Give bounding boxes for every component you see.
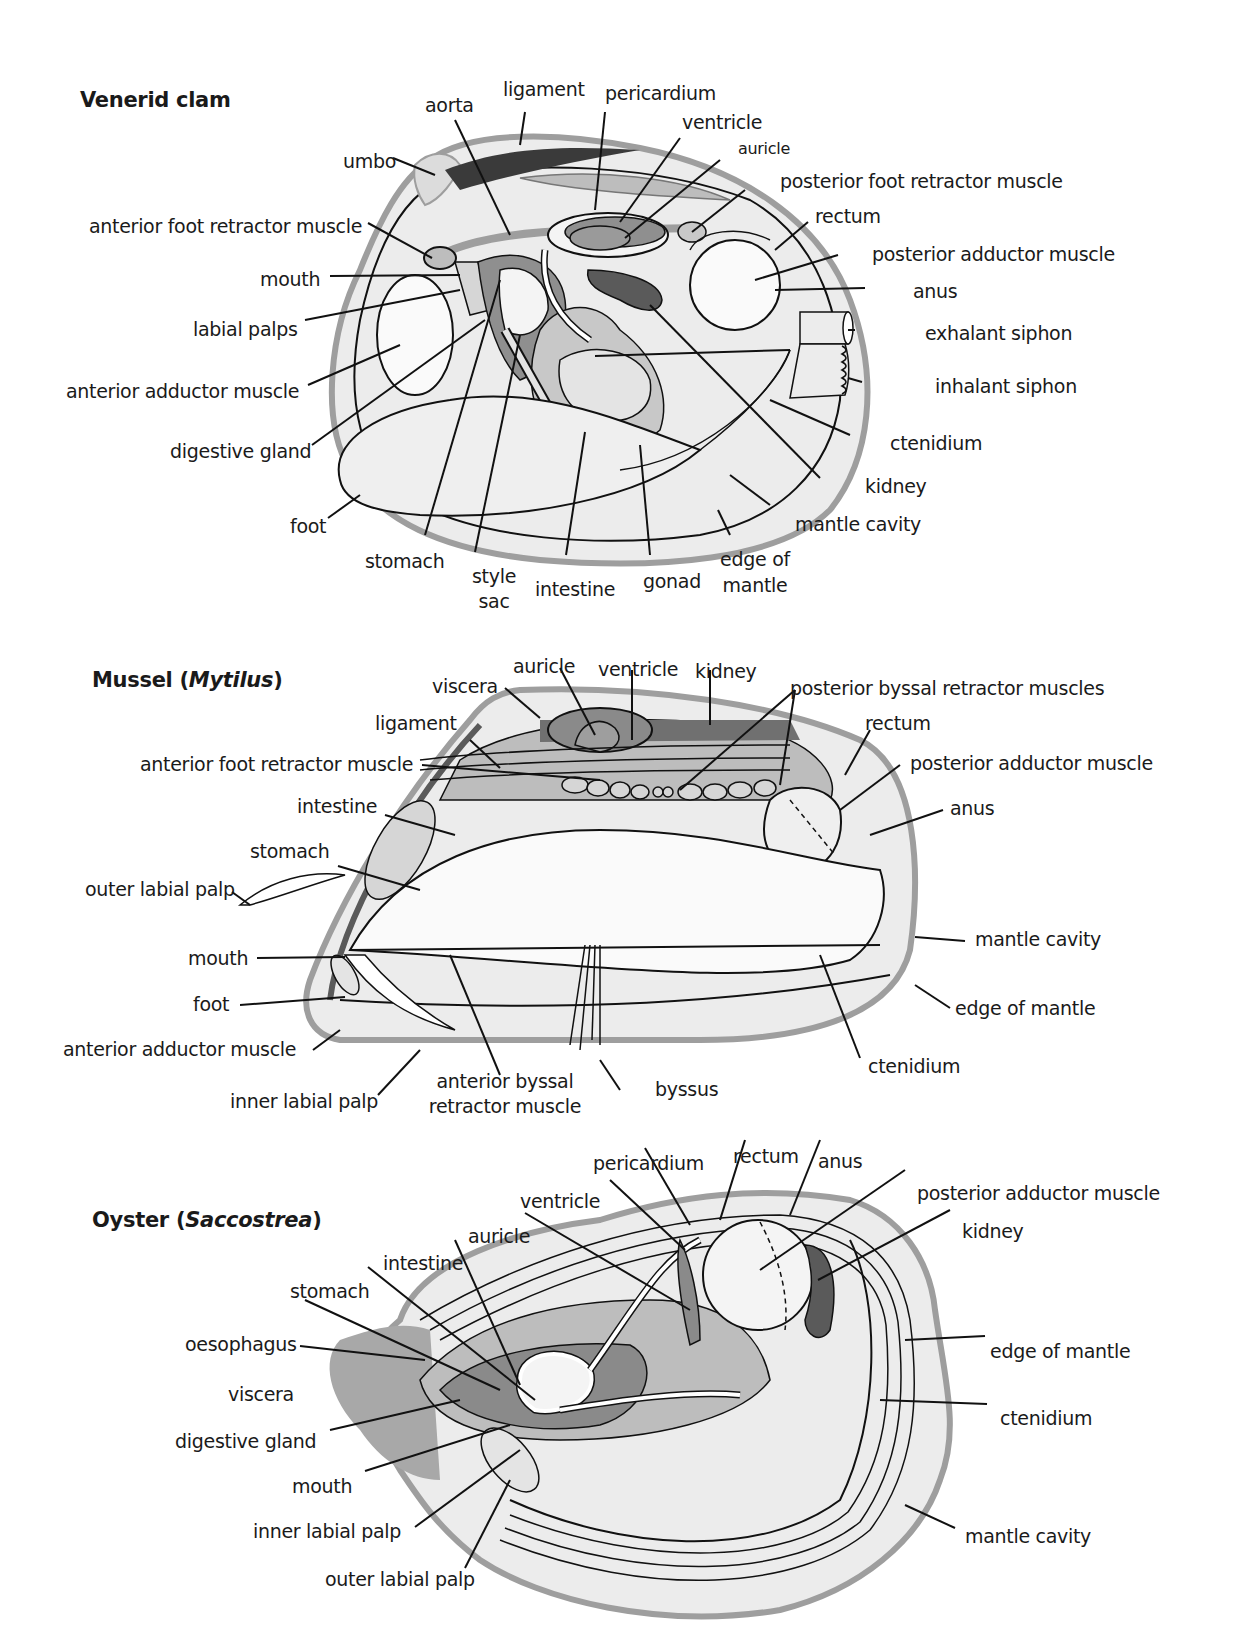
label-exhalant-siphon: exhalant siphon [925, 322, 1072, 344]
label-posterior-adductor-muscle: posterior adductor muscle [872, 243, 1115, 265]
label-anterior-byssal-retractor-line2: retractor muscle [425, 1095, 585, 1117]
label-ctenidium: ctenidium [1000, 1407, 1092, 1429]
label-rectum: rectum [865, 712, 931, 734]
label-anterior-byssal-retractor-line1: anterior byssal [425, 1070, 585, 1092]
label-pericardium: pericardium [605, 82, 716, 104]
label-foot: foot [290, 515, 326, 537]
label-mouth: mouth [292, 1475, 352, 1497]
mussel-diagram [232, 668, 965, 1095]
label-stomach: stomach [250, 840, 330, 862]
label-edge-of-mantle-line2: mantle [715, 574, 795, 596]
label-viscera: viscera [228, 1383, 294, 1405]
label-stomach: stomach [365, 550, 445, 572]
label-kidney: kidney [962, 1220, 1024, 1242]
label-anterior-adductor-muscle: anterior adductor muscle [63, 1038, 296, 1060]
label-labial-palps: labial palps [193, 318, 298, 340]
label-mantle-cavity: mantle cavity [975, 928, 1101, 950]
label-byssus: byssus [655, 1078, 718, 1100]
label-ctenidium: ctenidium [868, 1055, 960, 1077]
label-intestine: intestine [383, 1252, 463, 1274]
label-intestine: intestine [297, 795, 377, 817]
label-digestive-gland: digestive gland [175, 1430, 316, 1452]
label-mouth: mouth [188, 947, 248, 969]
label-style-sac-line1: style [470, 565, 518, 587]
label-inner-labial-palp: inner labial palp [253, 1520, 401, 1542]
label-anus: anus [818, 1150, 862, 1172]
label-mouth: mouth [260, 268, 320, 290]
label-anus: anus [950, 797, 994, 819]
label-pericardium: pericardium [593, 1152, 704, 1174]
label-auricle: auricle [738, 138, 790, 160]
mussel-genus: Mytilus [189, 668, 273, 692]
label-aorta: aorta [425, 94, 474, 116]
label-rectum: rectum [733, 1145, 799, 1167]
label-edge-of-mantle-line1: edge of [715, 548, 795, 570]
label-posterior-adductor-muscle: posterior adductor muscle [910, 752, 1153, 774]
label-digestive-gland: digestive gland [170, 440, 311, 462]
clam-title: Venerid clam [80, 88, 231, 112]
label-posterior-foot-retractor-muscle: posterior foot retractor muscle [780, 170, 1063, 192]
label-inner-labial-palp: inner labial palp [230, 1090, 378, 1112]
label-gonad: gonad [643, 570, 701, 592]
label-rectum: rectum [815, 205, 881, 227]
label-edge-of-mantle: edge of mantle [955, 997, 1095, 1019]
label-umbo: umbo [343, 150, 396, 172]
oyster-diagram [300, 1140, 987, 1616]
label-auricle: auricle [468, 1225, 530, 1247]
label-ventricle: ventricle [682, 111, 762, 133]
label-ligament: ligament [375, 712, 457, 734]
label-ctenidium: ctenidium [890, 432, 982, 454]
label-edge-of-mantle: edge of mantle [990, 1340, 1130, 1362]
mussel-title: Mussel (Mytilus) [92, 668, 282, 692]
label-kidney: kidney [865, 475, 927, 497]
label-posterior-byssal-retractor-muscles: posterior byssal retractor muscles [790, 677, 1104, 699]
label-oesophagus: oesophagus [185, 1333, 297, 1355]
label-anterior-adductor-muscle: anterior adductor muscle [66, 380, 299, 402]
label-kidney: kidney [695, 660, 757, 682]
label-style-sac-line2: sac [470, 590, 518, 612]
oyster-genus: Saccostrea [185, 1208, 312, 1232]
label-auricle: auricle [513, 655, 575, 677]
label-outer-labial-palp: outer labial palp [85, 878, 235, 900]
label-inhalant-siphon: inhalant siphon [935, 375, 1077, 397]
label-foot: foot [193, 993, 229, 1015]
label-mantle-cavity: mantle cavity [965, 1525, 1091, 1547]
label-posterior-adductor-muscle: posterior adductor muscle [917, 1182, 1160, 1204]
label-stomach: stomach [290, 1280, 370, 1302]
label-ligament: ligament [503, 78, 585, 100]
label-intestine: intestine [535, 578, 615, 600]
label-outer-labial-palp: outer labial palp [325, 1568, 475, 1590]
label-ventricle: ventricle [520, 1190, 600, 1212]
label-anus: anus [913, 280, 957, 302]
oyster-title: Oyster (Saccostrea) [92, 1208, 321, 1232]
label-anterior-foot-retractor-muscle: anterior foot retractor muscle [89, 215, 362, 237]
label-viscera: viscera [432, 675, 498, 697]
label-anterior-foot-retractor-muscle: anterior foot retractor muscle [140, 753, 413, 775]
label-ventricle: ventricle [598, 658, 678, 680]
label-mantle-cavity: mantle cavity [795, 513, 921, 535]
